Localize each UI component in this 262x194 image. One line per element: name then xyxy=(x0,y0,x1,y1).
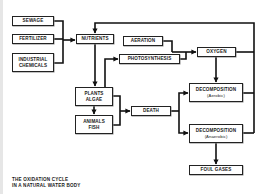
node-label: AERATION xyxy=(131,38,155,44)
node-label-line2: (Aerobic) xyxy=(207,93,225,99)
node-label-line2: FISH xyxy=(89,125,100,131)
node-industrial-chemicals: INDUSTRIAL CHEMICALS xyxy=(12,53,54,72)
node-label: SEWAGE xyxy=(23,18,44,24)
node-label-line2: CHEMICALS xyxy=(19,63,47,69)
node-photosynthesis: PHOTOSYNTHESIS xyxy=(119,54,180,64)
node-nutrients: NUTRIENTS xyxy=(76,34,114,44)
node-label: OXYGEN xyxy=(206,49,226,55)
node-label: FERTILIZER xyxy=(19,36,47,42)
node-death: DEATH xyxy=(131,106,171,116)
node-label: NUTRIENTS xyxy=(81,36,108,42)
node-animals-fish: ANIMALS FISH xyxy=(75,115,113,134)
node-fertilizer: FERTILIZER xyxy=(12,34,54,44)
node-decomposition-aerobic: DECOMPOSITION (Aerobic) xyxy=(189,83,243,102)
node-label: FOUL GASES xyxy=(201,167,232,173)
node-foul-gases: FOUL GASES xyxy=(189,165,243,175)
node-decomposition-anaerobic: DECOMPOSITION (Anaerobic) xyxy=(189,124,243,143)
node-label: DEATH xyxy=(143,108,159,114)
node-sewage: SEWAGE xyxy=(12,16,54,26)
node-label-line2: ALGAE xyxy=(86,97,103,103)
node-plants-algae: PLANTS ALGAE xyxy=(75,87,113,106)
node-oxygen: OXYGEN xyxy=(197,47,236,57)
node-aeration: AERATION xyxy=(123,36,163,46)
node-label-line2: (Anaerobic) xyxy=(205,134,228,140)
caption-line-2: IN A NATURAL WATER BODY xyxy=(12,183,81,189)
node-label: PHOTOSYNTHESIS xyxy=(128,56,172,62)
diagram-caption: THE OXIDATION CYCLE IN A NATURAL WATER B… xyxy=(12,177,81,189)
